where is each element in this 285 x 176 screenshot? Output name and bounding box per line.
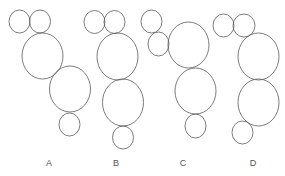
option-a-label: A	[46, 158, 52, 168]
option-c-circle-3	[168, 22, 209, 68]
circle-arrangement-diagram: A B C D	[0, 0, 285, 176]
option-d-circle-3	[238, 33, 279, 80]
option-a-circle-2	[30, 10, 51, 33]
option-b-circle-4	[103, 79, 144, 126]
option-b-circle-3	[97, 33, 138, 80]
option-c-circle-2	[148, 32, 169, 56]
option-d-circle-4	[238, 79, 279, 126]
option-c-circle-1	[141, 10, 162, 33]
option-a-circle-4	[50, 66, 91, 112]
option-c-circle-5	[185, 114, 206, 138]
option-b-circle-5	[113, 126, 134, 149]
option-c-circle-4	[175, 68, 216, 114]
option-b-group: B	[84, 11, 144, 169]
option-d-circle-2	[233, 14, 255, 37]
option-b-circle-2	[104, 11, 125, 34]
option-d-circle-5	[232, 121, 253, 144]
option-c-group: C	[141, 10, 216, 168]
option-a-group: A	[9, 10, 91, 168]
option-d-group: D	[213, 14, 279, 168]
option-a-circle-1	[9, 10, 30, 33]
option-d-label: D	[250, 158, 257, 168]
option-a-circle-3	[22, 33, 63, 79]
option-b-label: B	[113, 158, 119, 168]
option-a-circle-5	[59, 113, 80, 136]
option-d-circle-1	[213, 14, 234, 37]
option-c-label: C	[180, 158, 187, 168]
option-b-circle-1	[84, 11, 105, 34]
